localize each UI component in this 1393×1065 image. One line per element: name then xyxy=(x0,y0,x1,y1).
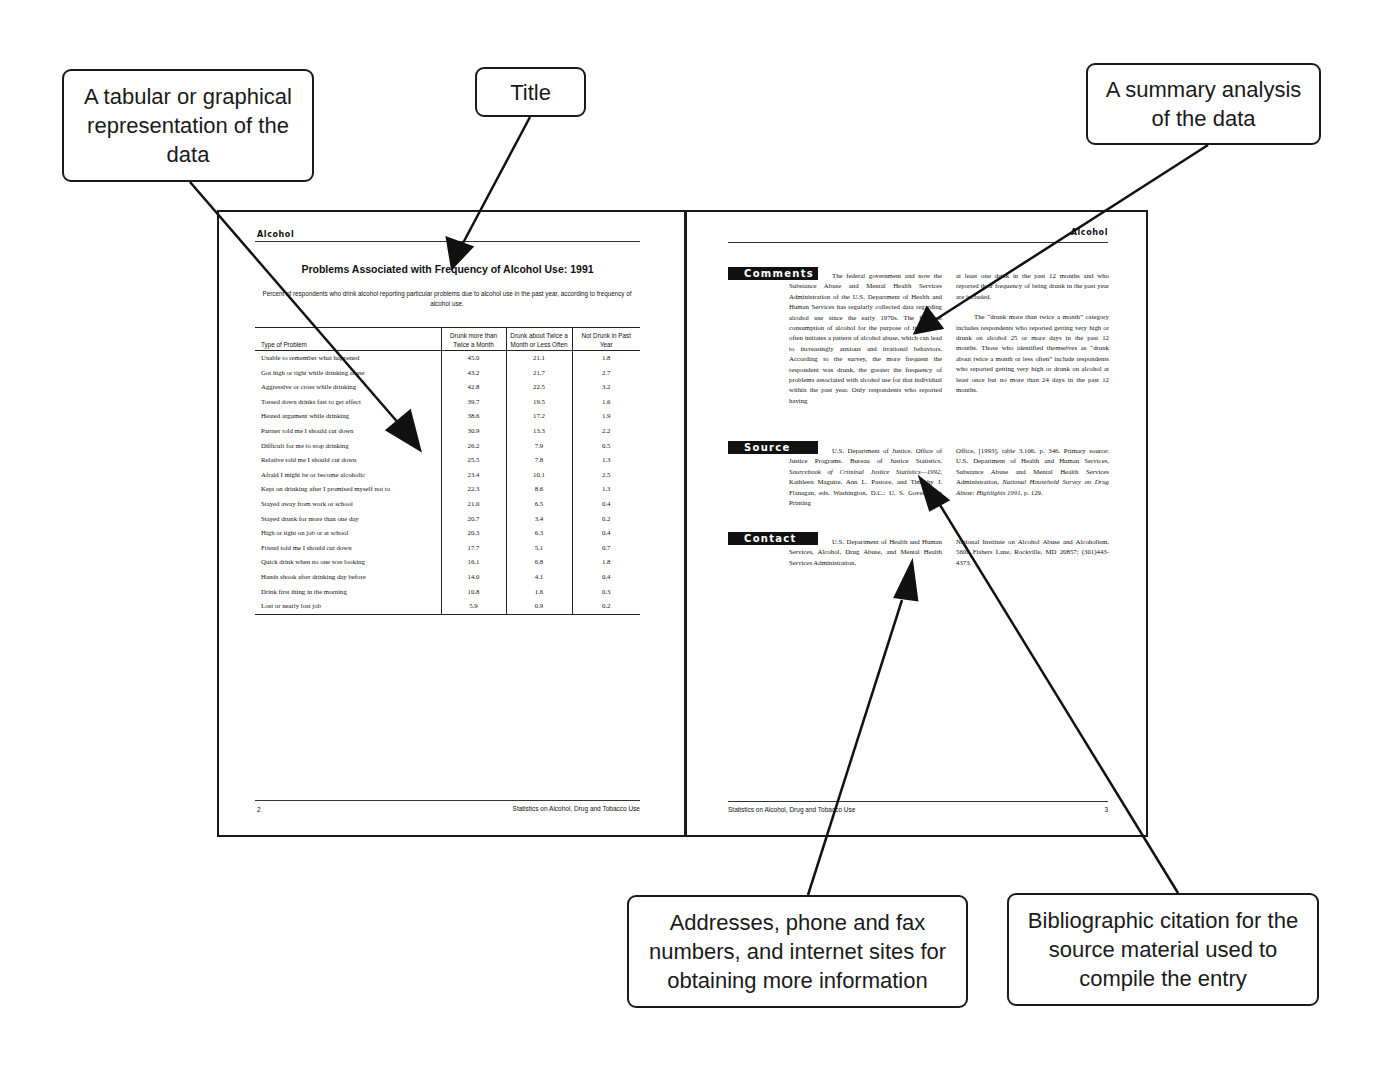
title-arrow-head-icon xyxy=(447,238,472,268)
contact-arrow-head-icon xyxy=(895,562,917,600)
citation-arrow-line xyxy=(940,505,1178,893)
title-arrow-line xyxy=(462,117,530,245)
contact-arrow-line xyxy=(808,600,902,895)
callout-arrows xyxy=(0,0,1393,1065)
citation-arrow-head-icon xyxy=(920,478,948,510)
table-arrow-line xyxy=(190,182,400,425)
summary-arrow-line xyxy=(935,145,1208,320)
summary-arrow-head-icon xyxy=(915,308,942,333)
